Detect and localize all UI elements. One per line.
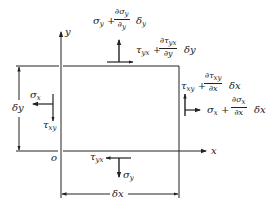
right-shear-increment: δx — [229, 81, 241, 91]
left-normal-stress-label: σx — [30, 90, 41, 102]
right-normal-stress-label: σx + — [207, 105, 229, 117]
right-shear-stress-label: τxy + — [181, 81, 206, 93]
x-axis-label: x — [211, 146, 217, 156]
top-normal-fraction: ∂σy ∂y — [114, 8, 130, 31]
y-axis-label: y — [65, 27, 71, 37]
dy-label: δy — [12, 103, 24, 113]
top-shear-increment: δy — [184, 45, 196, 55]
top-shear-fraction: ∂τyx ∂y — [159, 37, 177, 58]
dx-label: δx — [112, 189, 124, 199]
right-shear-fraction: ∂τxy ∂x — [204, 72, 222, 93]
right-normal-fraction: ∂σx ∂x — [231, 96, 247, 117]
left-shear-stress-label: τxy — [43, 120, 56, 132]
bottom-normal-stress-label: σy — [123, 170, 134, 182]
origin-label: o — [51, 153, 57, 163]
top-shear-stress-label: τyx + — [136, 45, 161, 57]
right-normal-increment: δx — [254, 105, 266, 115]
top-normal-increment: δy — [136, 16, 146, 28]
stress-element-diagram: y x o δy δx σy + ∂σy ∂y δy τyx + ∂τyx ∂y… — [0, 0, 274, 209]
top-normal-stress-label: σy + — [93, 16, 115, 28]
bottom-shear-stress-label: τyx — [90, 152, 103, 164]
